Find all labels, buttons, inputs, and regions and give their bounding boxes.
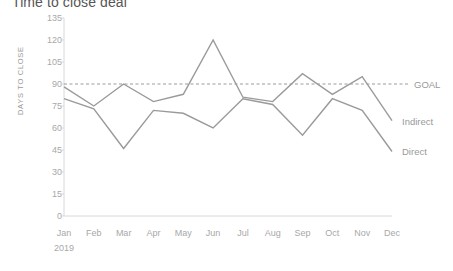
series-label-direct: Direct (402, 146, 427, 157)
chart-plot-area (0, 0, 453, 271)
series-label-goal: GOAL (414, 79, 440, 90)
series-line-indirect (64, 40, 392, 121)
chart-axis-lines (64, 18, 392, 216)
chart-container: Time to close deal DAYS TO CLOSE 1351201… (0, 0, 453, 271)
series-line-direct (64, 99, 392, 152)
series-label-indirect: Indirect (402, 115, 433, 126)
